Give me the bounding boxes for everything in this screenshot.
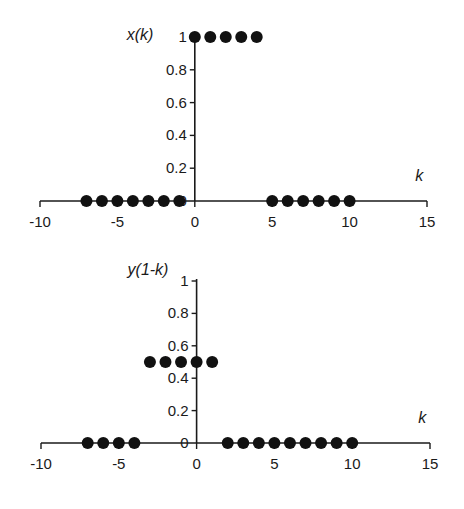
data-point <box>175 356 187 368</box>
y-tick-label: 0.6 <box>168 337 189 354</box>
x-tick-label: 0 <box>192 455 200 472</box>
y-axis-label: y(1-k) <box>127 261 169 278</box>
y-tick-label: 0.4 <box>166 126 187 143</box>
y-tick-label: 0 <box>180 434 188 451</box>
data-point <box>97 437 109 449</box>
y-tick-label: 0.2 <box>168 402 189 419</box>
data-point <box>268 437 280 449</box>
data-point <box>206 356 218 368</box>
data-point <box>251 31 263 43</box>
y-tick-label: 0.4 <box>168 369 189 386</box>
y-tick-label: 0.6 <box>166 94 187 111</box>
chart-x-of-k: -10-505101500.20.40.60.81x(k)k <box>29 26 435 230</box>
x-tick-label: -5 <box>112 455 125 472</box>
x-tick-label: 5 <box>270 455 278 472</box>
data-point <box>344 195 356 207</box>
data-point <box>173 195 185 207</box>
y-tick-label: 0.2 <box>166 159 187 176</box>
data-point <box>144 356 156 368</box>
x-tick-label: 10 <box>344 455 361 472</box>
x-axis-label: k <box>418 409 427 426</box>
data-point <box>113 437 125 449</box>
data-point <box>237 437 249 449</box>
data-point <box>313 195 325 207</box>
data-point <box>204 31 216 43</box>
data-point <box>142 195 154 207</box>
data-point <box>159 356 171 368</box>
x-tick-label: 10 <box>341 213 358 230</box>
data-point <box>282 195 294 207</box>
data-point <box>235 31 247 43</box>
data-point <box>127 195 139 207</box>
data-point <box>96 195 108 207</box>
data-point <box>284 437 296 449</box>
x-tick-label: -10 <box>30 455 52 472</box>
data-point <box>346 437 358 449</box>
y-tick-label: 0.8 <box>168 304 189 321</box>
data-point <box>222 437 234 449</box>
data-point <box>297 195 309 207</box>
data-point <box>266 195 278 207</box>
y-axis-label: x(k) <box>126 26 154 43</box>
x-tick-label: 0 <box>191 213 199 230</box>
x-tick-label: -10 <box>29 213 51 230</box>
x-axis-label: k <box>415 167 424 184</box>
data-point <box>158 195 170 207</box>
data-point <box>128 437 140 449</box>
data-point <box>331 437 343 449</box>
y-tick-label: 1 <box>178 28 186 45</box>
y-tick-label: 0.8 <box>166 61 187 78</box>
data-point <box>220 31 232 43</box>
data-point <box>82 437 94 449</box>
data-point <box>189 31 201 43</box>
x-tick-label: -5 <box>111 213 124 230</box>
chart-y-of-1-minus-k: -10-505101500.20.40.60.81y(1-k)k <box>30 261 438 472</box>
data-point <box>191 356 203 368</box>
data-point <box>328 195 340 207</box>
data-point <box>253 437 265 449</box>
data-point <box>80 195 92 207</box>
data-point <box>315 437 327 449</box>
y-tick-label: 1 <box>180 272 188 289</box>
data-point <box>300 437 312 449</box>
x-tick-label: 5 <box>268 213 276 230</box>
x-tick-label: 15 <box>422 455 439 472</box>
stem-charts: -10-505101500.20.40.60.81x(k)k -10-50510… <box>0 0 464 509</box>
data-point <box>111 195 123 207</box>
x-tick-label: 15 <box>419 213 436 230</box>
